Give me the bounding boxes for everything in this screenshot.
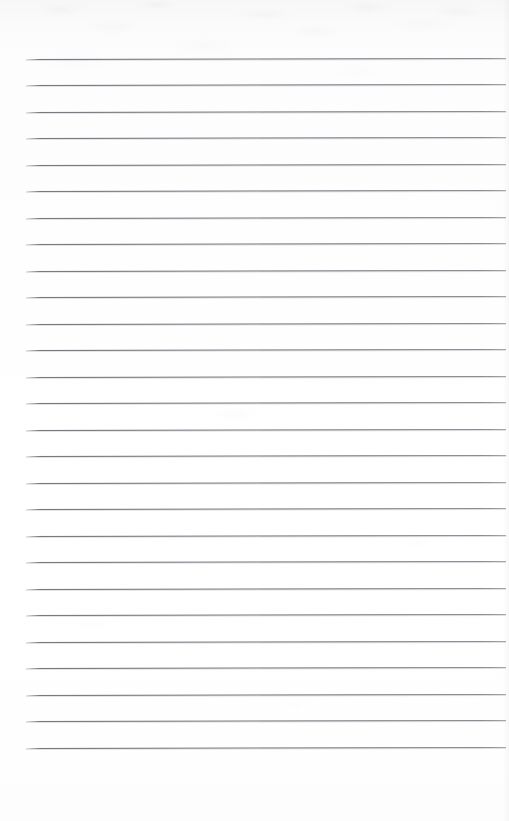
writing-area	[26, 59, 506, 749]
scanned-page	[0, 0, 509, 821]
